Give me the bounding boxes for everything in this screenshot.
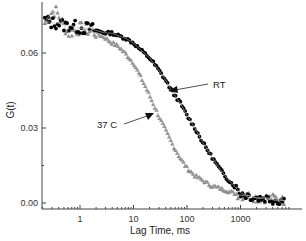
data-point	[54, 4, 58, 8]
data-point	[83, 31, 87, 35]
x-tick-label: 1000	[230, 214, 250, 224]
data-point	[57, 24, 61, 28]
data-point	[51, 16, 55, 20]
data-point	[70, 26, 74, 30]
fit-line	[45, 21, 284, 201]
x-axis-title: Lag Time, ms	[130, 225, 190, 236]
fit-curves	[45, 11, 284, 200]
data-point	[244, 196, 248, 200]
arrow-rt-line	[175, 84, 208, 90]
x-tick-label: 10	[128, 214, 138, 224]
x-tick-label: 1	[77, 214, 82, 224]
series-rt	[43, 15, 286, 206]
data-point	[65, 21, 69, 25]
data-series-layer	[43, 4, 287, 206]
y-tick-label: 0.03	[20, 123, 38, 133]
data-point	[73, 19, 77, 23]
y-tick-label: 0.00	[20, 198, 38, 208]
fcs-correlation-chart: 0.000.030.06 1101001000 G(t) Lag Time, m…	[0, 0, 306, 241]
data-point	[62, 29, 66, 33]
x-axis-ticks: 1101001000	[43, 205, 289, 224]
x-tick-label: 100	[179, 214, 194, 224]
data-point	[263, 200, 267, 204]
data-point	[91, 22, 95, 26]
data-point	[86, 21, 90, 25]
data-point	[70, 34, 74, 38]
annotation-rt: RT	[168, 79, 226, 93]
annotation-rt-label: RT	[213, 79, 226, 90]
data-point	[54, 27, 58, 31]
y-tick-label: 0.06	[20, 48, 38, 58]
annotation-37c-label: 37 C	[97, 119, 117, 130]
data-point	[277, 202, 281, 206]
y-axis-title: G(t)	[5, 101, 16, 118]
arrow-37c-line	[124, 116, 147, 124]
data-point	[257, 199, 261, 203]
annotation-37c: 37 C	[97, 113, 154, 130]
fit-line	[45, 11, 284, 200]
